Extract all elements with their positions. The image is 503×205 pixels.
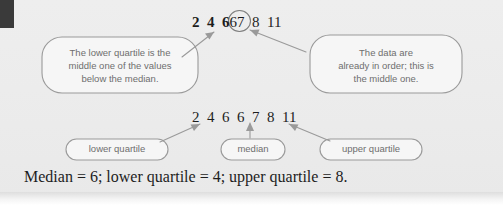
median-pill-label: median [222,143,284,155]
summary-line: Median = 6; lower quartile = 4; upper qu… [24,168,347,186]
bottom-data-sequence: 2 4 6 6 7 8 11 [192,108,296,126]
upper-quartile-pill-label: upper quartile [322,143,420,155]
top-data-circled-value: 6 [230,14,238,30]
median-order-callout-label: The data are already in order; this is t… [318,46,454,85]
figure-root: 2 4 667 8 11 2 4 6 6 7 8 11 The lower qu… [0,0,503,205]
top-data-bold-segment: 2 4 6 [192,14,230,30]
lower-quartile-callout-label: The lower quartile is the middle one of … [48,46,192,85]
top-data-sequence: 2 4 667 8 11 [192,13,281,31]
top-data-plain-segment: 7 8 11 [237,14,281,30]
arrow-right-callout-to-six [250,30,306,52]
lower-quartile-pill-label: lower quartile [68,143,166,155]
